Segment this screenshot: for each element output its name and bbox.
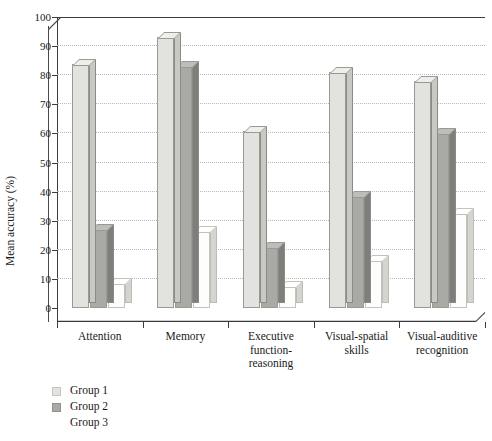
bar-front-face bbox=[72, 64, 89, 308]
y-tick-label: 20 bbox=[40, 244, 51, 255]
chart-legend: Group 1Group 2Group 3 bbox=[52, 383, 108, 431]
legend-label: Group 1 bbox=[70, 385, 108, 397]
x-tick-label-line: Executive function- bbox=[228, 330, 314, 357]
bar bbox=[157, 37, 174, 308]
bar-front-face bbox=[329, 72, 346, 308]
y-tick-label: 90 bbox=[40, 41, 51, 52]
x-tick-label: Visual-auditiverecognition bbox=[399, 330, 485, 357]
bar-group bbox=[399, 17, 485, 308]
x-tick-mark bbox=[57, 322, 58, 328]
x-tick-label-line: Visual-spatial bbox=[314, 330, 400, 344]
y-tick-label: 40 bbox=[40, 186, 51, 197]
x-tick-label-line: Memory bbox=[143, 330, 229, 344]
bar-side-face bbox=[107, 224, 114, 303]
x-tick-label-line: skills bbox=[314, 344, 400, 358]
bar-group bbox=[57, 17, 143, 308]
bar bbox=[243, 131, 260, 309]
bar-side-face bbox=[210, 226, 217, 303]
bar bbox=[72, 64, 89, 308]
bar-side-face bbox=[260, 126, 267, 304]
legend-label: Group 2 bbox=[70, 401, 108, 413]
x-tick-label-line: recognition bbox=[399, 344, 485, 358]
y-tick-mark bbox=[52, 308, 57, 309]
legend-swatch bbox=[52, 387, 61, 396]
bar-group bbox=[143, 17, 229, 308]
bar-chart-figure: 0102030405060708090100 Mean accuracy (%)… bbox=[0, 0, 492, 441]
x-tick-mark bbox=[228, 322, 229, 328]
bar-side-face bbox=[174, 32, 181, 303]
legend-item[interactable]: Group 1 bbox=[52, 383, 108, 399]
bar-side-face bbox=[431, 76, 438, 303]
legend-item[interactable]: Group 3 bbox=[52, 415, 108, 431]
bar bbox=[414, 81, 431, 308]
x-tick-label: Attention bbox=[57, 330, 143, 344]
x-tick-label: Memory bbox=[143, 330, 229, 344]
bar-side-face bbox=[449, 128, 456, 303]
legend-item[interactable]: Group 2 bbox=[52, 399, 108, 415]
y-tick-label: 70 bbox=[40, 99, 51, 110]
y-tick-label: 50 bbox=[40, 157, 51, 168]
bar-group bbox=[314, 17, 400, 308]
y-tick-label: 10 bbox=[40, 273, 51, 284]
x-tick-mark bbox=[143, 322, 144, 328]
bar-side-face bbox=[192, 61, 199, 303]
bar-side-face bbox=[467, 208, 474, 303]
x-tick-label-line: Visual-auditive bbox=[399, 330, 485, 344]
x-tick-mark bbox=[314, 322, 315, 328]
x-tick-label-line: reasoning bbox=[228, 357, 314, 371]
legend-label: Group 3 bbox=[70, 417, 108, 429]
bar-front-face bbox=[414, 81, 431, 308]
chart-floor bbox=[57, 308, 485, 322]
y-tick-label: 60 bbox=[40, 128, 51, 139]
x-tick-mark bbox=[485, 322, 486, 328]
legend-swatch bbox=[52, 419, 61, 428]
y-tick-label: 30 bbox=[40, 215, 51, 226]
x-tick-label: Executive function-reasoning bbox=[228, 330, 314, 371]
bar-side-face bbox=[346, 67, 353, 303]
x-tick-label-line: Attention bbox=[57, 330, 143, 344]
y-tick-label: 80 bbox=[40, 70, 51, 81]
y-tick-label: 0 bbox=[46, 303, 52, 314]
bar-group bbox=[228, 17, 314, 308]
legend-swatch bbox=[52, 403, 61, 412]
bar-front-face bbox=[243, 131, 260, 309]
bar-side-face bbox=[364, 191, 371, 303]
bar-side-face bbox=[382, 255, 389, 303]
x-tick-mark bbox=[399, 322, 400, 328]
bar-side-face bbox=[278, 242, 285, 303]
y-axis-label: Mean accuracy (%) bbox=[4, 175, 16, 265]
x-tick-label: Visual-spatialskills bbox=[314, 330, 400, 357]
bar bbox=[329, 72, 346, 308]
bar-front-face bbox=[157, 37, 174, 308]
bar-side-face bbox=[89, 59, 96, 303]
plot-area: 0102030405060708090100 bbox=[57, 17, 485, 322]
y-tick-label: 100 bbox=[35, 12, 52, 23]
